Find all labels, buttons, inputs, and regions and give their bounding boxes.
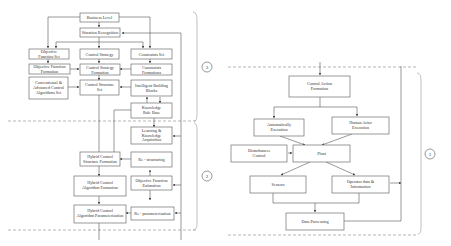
svg-text:Formations: Formations (142, 70, 161, 75)
svg-text:Information: Information (350, 184, 371, 189)
situation-recognition-box: Situation Recognition (80, 28, 120, 37)
hybrid-control-algorithm-parameterization-box: Hybrid Control Algorithm Parameterizatio… (74, 205, 126, 223)
svg-text:Data Processing: Data Processing (301, 219, 329, 224)
svg-text:Set: Set (97, 87, 103, 92)
svg-text:Algorithm Parameterization: Algorithm Parameterization (77, 213, 125, 218)
learning-knowledge-acquisition-box: Learning & Knowledge Acquisition (131, 127, 172, 144)
sensors-box: Sensors (250, 176, 306, 193)
hybrid-control-algorithm-formation-box: Hybrid Control Algorithm Formation (74, 176, 126, 196)
knowledge-rule-base-box: Knowledge Rule Base (131, 103, 172, 118)
objective-function-estimation-box: Objective Function Estimation (131, 176, 172, 190)
automatically-execution-box: Automatically Execution (254, 119, 304, 136)
level-3-brace (193, 12, 197, 121)
svg-text:Situation Recognition: Situation Recognition (82, 30, 120, 35)
hierarchical-control-diagram: 3 2 Bu (0, 0, 451, 246)
conventional-advanced-control-box: Conventional & Advanced Control Algorith… (29, 77, 68, 99)
data-processing-box: Data Processing (286, 213, 344, 230)
right-diagram: 1 Control Action Formation Automatically… (228, 62, 435, 235)
objective-function-formation-box: Objective Function Formation (29, 64, 70, 74)
svg-text:Re - structuring: Re - structuring (138, 157, 165, 162)
level-1-brace (417, 73, 421, 234)
svg-text:Formation: Formation (91, 70, 109, 75)
intelligent-building-blocks-box: Intelligent Building Blocks (131, 80, 172, 96)
svg-text:Formation: Formation (41, 69, 59, 74)
control-strategy-formation-box: Control Strategy Formation (80, 64, 120, 75)
svg-text:Structure Formation: Structure Formation (83, 159, 118, 164)
svg-text:Execution: Execution (271, 127, 289, 132)
plant-box: Plant (293, 145, 350, 162)
svg-text:Acquisition: Acquisition (142, 137, 162, 142)
svg-text:Plant: Plant (317, 151, 326, 156)
level-2-brace (193, 123, 197, 230)
left-diagram: 3 2 Bu (8, 12, 212, 240)
control-strategy-box: Control Strategy (80, 49, 119, 59)
svg-text:Blocks: Blocks (146, 88, 158, 93)
hybrid-control-structure-formation-box: Hybrid Control Structure Formation (80, 152, 120, 166)
control-action-formation-box: Control Action Formation (289, 76, 350, 97)
restructuring-box: Re - structuring (131, 152, 172, 167)
operator-data-information-box: Operator data & Information (332, 176, 389, 193)
svg-text:Constraints Set: Constraints Set (139, 52, 165, 57)
constraints-set-box: Constraints Set (131, 49, 172, 59)
svg-text:Control: Control (253, 153, 267, 158)
svg-text:Business Level: Business Level (87, 15, 113, 20)
svg-text:Algorithm Formation: Algorithm Formation (82, 185, 119, 190)
svg-text:Rule Base: Rule Base (143, 110, 160, 115)
constraints-formations-box: Constraints Formations (131, 64, 172, 75)
svg-text:Function Set: Function Set (38, 54, 60, 59)
svg-text:Formation: Formation (311, 86, 329, 91)
svg-text:Algorithms Set: Algorithms Set (36, 90, 62, 95)
svg-text:Re - parameterization: Re - parameterization (134, 211, 171, 216)
business-level-box: Business Level (80, 13, 119, 22)
control-structure-set-box: Control Structure Set (80, 80, 119, 95)
svg-text:Execution: Execution (352, 125, 370, 130)
objective-function-set-box: Objective Function Set (29, 49, 69, 59)
human-actor-execution-box: Human Actor Execution (332, 117, 389, 134)
svg-text:Control Strategy: Control Strategy (86, 52, 115, 57)
reparameterization-box: Re - parameterization (131, 207, 174, 220)
disturbances-control-box: Disturbances Control (231, 145, 287, 162)
svg-text:Sensors: Sensors (271, 182, 284, 187)
svg-text:Estimation: Estimation (142, 183, 161, 188)
